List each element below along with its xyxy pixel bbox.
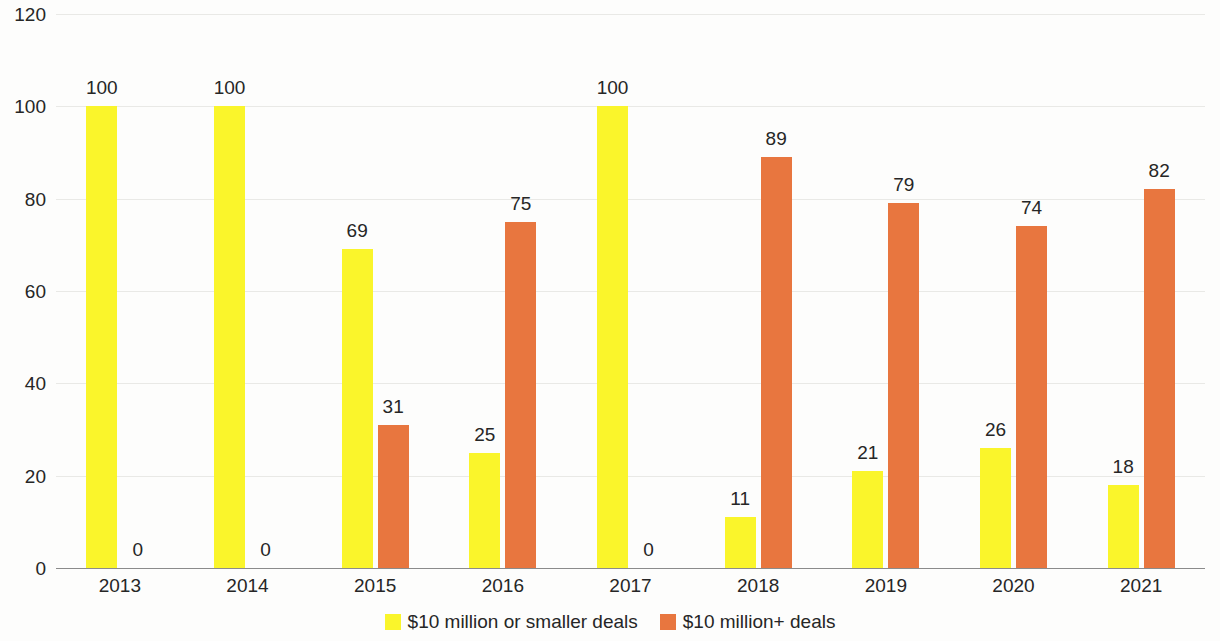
bar-chart: 020406080100120 100010006931257510001189… (0, 0, 1220, 641)
legend-item-1[interactable]: $10 million+ deals (660, 612, 836, 631)
legend-swatch-icon-0 (385, 614, 401, 630)
x-axis-tick-2016: 2016 (458, 576, 548, 595)
x-axis-tick-2019: 2019 (841, 576, 931, 595)
y-axis-tick-60: 60 (0, 282, 46, 301)
legend-swatch-icon-1 (660, 614, 676, 630)
y-axis-tick-0: 0 (0, 559, 46, 578)
x-axis-tick-2015: 2015 (330, 576, 420, 595)
y-axis-tick-100: 100 (0, 97, 46, 116)
x-axis-tick-2017: 2017 (586, 576, 676, 595)
bar-2021-large-value-label: 82 (1122, 161, 1197, 180)
bar-2021-small (1108, 485, 1139, 568)
bar-2021-large (1144, 189, 1175, 568)
chart-legend: $10 million or smaller deals$10 million+… (0, 612, 1220, 631)
x-axis-tick-2018: 2018 (713, 576, 803, 595)
y-axis-tick-120: 120 (0, 5, 46, 24)
legend-label-0: $10 million or smaller deals (408, 612, 638, 631)
y-axis-tick-40: 40 (0, 374, 46, 393)
x-axis-tick-2020: 2020 (969, 576, 1059, 595)
bar-group-2021: 1882 (56, 14, 1205, 568)
legend-item-0[interactable]: $10 million or smaller deals (385, 612, 638, 631)
y-axis: 020406080100120 (0, 0, 46, 641)
legend-label-1: $10 million+ deals (683, 612, 836, 631)
y-axis-tick-80: 80 (0, 190, 46, 209)
plot-area: 100010006931257510001189217926741882 (56, 14, 1205, 568)
x-axis-tick-2013: 2013 (75, 576, 165, 595)
x-axis-tick-2014: 2014 (203, 576, 293, 595)
y-axis-tick-20: 20 (0, 467, 46, 486)
x-axis-tick-2021: 2021 (1096, 576, 1186, 595)
axis-baseline (56, 568, 1205, 569)
